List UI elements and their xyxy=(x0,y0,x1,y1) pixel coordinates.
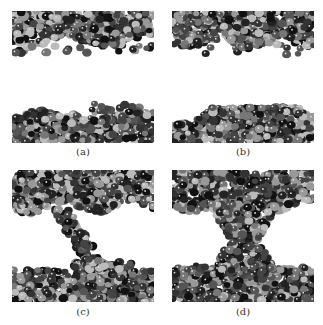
panel-c-caption: (c) xyxy=(12,306,154,317)
panel-d-image xyxy=(172,170,314,302)
panel-b-caption: (b) xyxy=(172,146,314,157)
panel-c-image xyxy=(12,170,154,302)
panel-b-image xyxy=(172,11,314,143)
panel-a-image xyxy=(12,11,154,143)
panel-a-caption: (a) xyxy=(12,146,154,157)
panel-d-caption: (d) xyxy=(172,306,314,317)
